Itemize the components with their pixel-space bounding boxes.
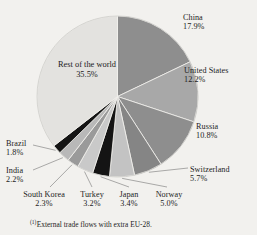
slice-label-united-states-value: 12.2%: [184, 76, 229, 85]
slice-label-switzerland: Switzerland 5.7%: [190, 166, 230, 183]
slice-label-rest-line2: the world: [84, 60, 116, 69]
slice-label-china-value: 17.9%: [183, 23, 204, 32]
slice-label-south-korea-value: 2.3%: [17, 200, 71, 209]
slice-label-russia-value: 10.8%: [196, 132, 218, 141]
slice-label-rest-value: 35.5%: [76, 70, 98, 79]
slice-label-rest-of-the-world: Rest of the world 35.5%: [47, 60, 127, 79]
leader-line: [50, 165, 72, 187]
slice-label-united-states: United States 12.2%: [184, 67, 229, 84]
leader-line: [122, 178, 167, 187]
slice-label-rest-line1: Rest of: [58, 60, 82, 69]
leader-line: [33, 158, 63, 170]
footnote-text: External trade flows with extra EU-28.: [37, 220, 152, 229]
slice-label-india-value: 2.2%: [6, 176, 23, 185]
slice-label-south-korea: South Korea 2.3%: [17, 191, 71, 208]
slice-label-norway: Norway 5.0%: [152, 191, 186, 208]
slice-label-india: India 2.2%: [6, 167, 23, 184]
leader-line: [101, 177, 129, 187]
footnote-marker: (1): [30, 219, 36, 225]
slice-label-switzerland-value: 5.7%: [190, 175, 230, 184]
leader-line: [149, 168, 188, 172]
slice-label-turkey-value: 3.2%: [76, 200, 108, 209]
pie-chart: China 17.9% United States 12.2% Russia 1…: [0, 0, 257, 235]
slice-label-turkey: Turkey 3.2%: [76, 191, 108, 208]
slice-label-brazil-value: 1.8%: [6, 149, 26, 158]
leader-line: [33, 145, 56, 150]
slice-label-japan-value: 3.4%: [114, 200, 144, 209]
pie-slices-group: [37, 16, 198, 177]
slice-label-china: China 17.9%: [183, 14, 204, 31]
leader-line: [84, 172, 92, 187]
slice-label-russia: Russia 10.8%: [196, 123, 218, 140]
slice-label-norway-value: 5.0%: [152, 200, 186, 209]
slice-label-japan: Japan 3.4%: [114, 191, 144, 208]
slice-label-brazil: Brazil 1.8%: [6, 140, 26, 157]
footnote: (1)External trade flows with extra EU-28…: [30, 219, 152, 229]
